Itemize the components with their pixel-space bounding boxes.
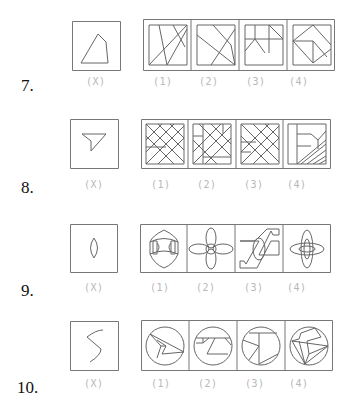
label-2: (2) (196, 282, 216, 293)
option-10-3-icon (242, 327, 280, 365)
option-9-2-icon (189, 228, 233, 269)
label-4: (4) (287, 179, 307, 190)
option-8-4-icon (288, 124, 326, 164)
question-9-figure-x[interactable] (70, 224, 118, 273)
option-8-2-icon (193, 124, 233, 164)
label-x: (X) (84, 179, 104, 190)
label-3: (3) (245, 378, 265, 389)
label-1: (1) (153, 76, 173, 87)
option-9-1-icon (150, 230, 178, 268)
s-curve-line-icon (70, 321, 119, 371)
triangle-funnel-icon (70, 119, 119, 169)
label-4: (4) (289, 76, 309, 87)
question-7-figure-x[interactable] (72, 21, 121, 71)
option-8-1-icon (146, 124, 186, 164)
option-7-3-icon (245, 25, 283, 65)
option-10-1-icon (146, 327, 184, 365)
question-number-7: 7. (21, 76, 34, 96)
option-9-3-icon (240, 229, 279, 268)
question-10-options (141, 320, 333, 371)
question-number-8: 8. (21, 178, 34, 198)
label-x: (X) (84, 378, 104, 389)
label-x: (X) (84, 282, 104, 293)
question-number-10: 10. (17, 378, 38, 398)
label-3: (3) (244, 179, 264, 190)
question-8-options (141, 119, 331, 169)
question-7-options (143, 19, 335, 71)
option-10-2-icon (194, 327, 232, 365)
label-x: (X) (86, 76, 106, 87)
label-3: (3) (246, 76, 266, 87)
question-9-options (140, 224, 331, 273)
label-2: (2) (197, 179, 217, 190)
label-2: (2) (198, 378, 218, 389)
option-10-4-icon (290, 327, 328, 365)
irregular-quadrilateral-icon (72, 21, 121, 71)
label-2: (2) (199, 76, 219, 87)
label-1: (1) (151, 378, 171, 389)
label-3: (3) (244, 282, 264, 293)
label-4: (4) (287, 282, 307, 293)
option-7-4-icon (293, 25, 331, 65)
question-number-9: 9. (21, 281, 34, 301)
question-10-figure-x[interactable] (70, 321, 119, 371)
option-9-4-icon (290, 230, 324, 268)
label-4: (4) (289, 378, 309, 389)
question-8-figure-x[interactable] (70, 119, 119, 169)
label-1: (1) (151, 179, 171, 190)
label-1: (1) (150, 282, 170, 293)
option-7-1-icon (149, 25, 187, 65)
option-8-3-icon (241, 124, 281, 164)
ellipse-leaf-icon (70, 224, 118, 273)
option-7-2-icon (197, 25, 235, 65)
